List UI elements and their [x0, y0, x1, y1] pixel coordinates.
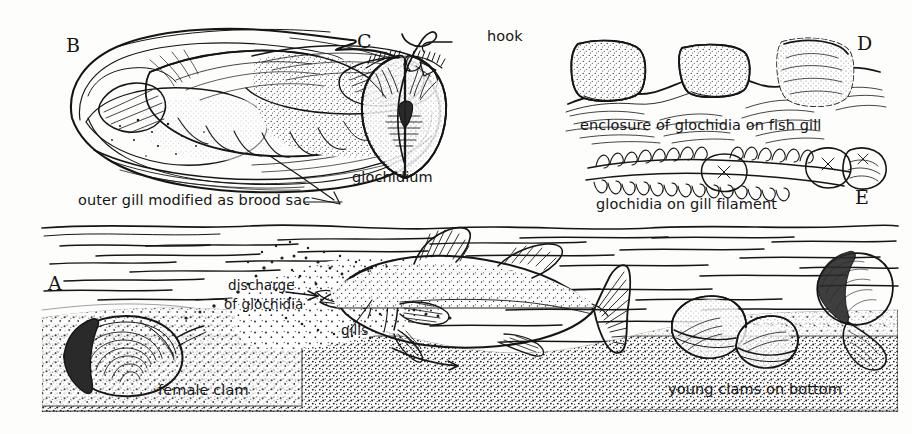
panel-letter-d: D — [857, 32, 872, 54]
caption-brood-sac: outer gill modified as brood sac — [78, 192, 310, 208]
label-discharge-line1: discharge — [228, 278, 295, 293]
panel-letter-a: A — [48, 272, 62, 294]
label-young-clams: young clams on bottom — [668, 381, 842, 397]
panel-letter-c: C — [357, 30, 372, 52]
illustration-vector-layer — [0, 0, 912, 434]
caption-glochidium: glochidium — [352, 169, 433, 185]
label-gills: gills — [341, 323, 368, 338]
label-discharge-line2: of glochidia — [224, 297, 303, 312]
panel-e-filament-drawing — [586, 147, 886, 201]
figure-canvas: B C D E A outer gill modified as brood s… — [0, 0, 912, 434]
caption-enclosure-glochidia: enclosure of glochidia on fish gill — [580, 117, 821, 133]
panel-letter-e: E — [855, 186, 869, 208]
panel-letter-b: B — [66, 34, 80, 56]
caption-glochidia-filament: glochidia on gill filament — [596, 196, 777, 212]
label-female-clam: female clam — [158, 382, 249, 398]
callout-hook: hook — [487, 28, 523, 44]
